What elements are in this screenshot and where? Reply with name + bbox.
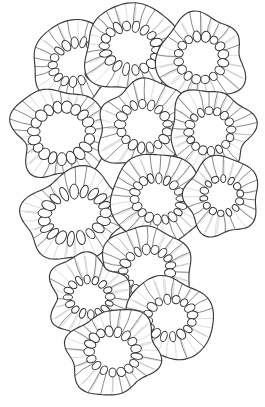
bead-cell xyxy=(220,175,226,183)
bead-cell xyxy=(217,210,224,217)
bead-cell xyxy=(138,99,146,109)
bead-cell xyxy=(84,275,91,284)
bead-cell xyxy=(69,184,78,199)
bead-cell xyxy=(205,107,213,115)
bead-cell xyxy=(162,120,172,127)
bead-cell xyxy=(183,128,194,136)
bead-cell xyxy=(236,190,244,198)
bead-cell xyxy=(109,368,116,377)
bead-cell xyxy=(100,208,112,218)
bead-cell xyxy=(155,173,162,184)
bead-cell xyxy=(63,295,72,300)
bead-cell xyxy=(200,195,209,201)
bead-cell xyxy=(105,293,115,300)
bead-cell xyxy=(130,195,139,203)
bead-cell xyxy=(71,37,79,49)
illustration-figure: Monochrome scientific line illustration … xyxy=(0,0,265,407)
spoke-shading xyxy=(75,238,76,254)
bead-cell xyxy=(226,126,236,134)
spoke-shading xyxy=(232,134,250,135)
radial-cell-cluster-drawing xyxy=(0,0,265,407)
bead-cell xyxy=(142,244,150,255)
bead-cell xyxy=(153,214,162,225)
bead-cell xyxy=(57,153,67,166)
